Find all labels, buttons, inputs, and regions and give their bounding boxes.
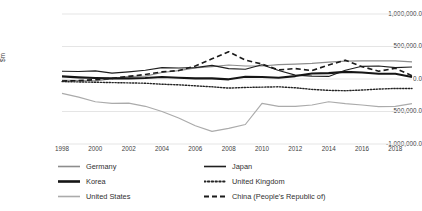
legend-label: Germany xyxy=(86,162,116,171)
x-tick-label: 2000 xyxy=(82,145,108,152)
x-tick-label: 2006 xyxy=(182,145,208,152)
series-line-united-states xyxy=(62,93,412,131)
x-tick-label: 2008 xyxy=(216,145,242,152)
legend-label: Korea xyxy=(86,177,106,186)
series-lines xyxy=(62,52,412,132)
x-tick-label: 1998 xyxy=(49,145,75,152)
legend-swatch-icon xyxy=(204,162,226,171)
legend-swatch-icon xyxy=(58,192,80,201)
x-tick-label: 2016 xyxy=(349,145,375,152)
series-line-united-kingdom xyxy=(62,82,412,91)
legend-swatch-icon xyxy=(204,192,226,201)
legend-item[interactable]: China (People's Republic of) xyxy=(204,190,325,203)
line-chart: $m 1,000,000.0500,000.00.0-500,000.0-1,0… xyxy=(0,0,422,211)
series-line-china-people-s-republic-of xyxy=(62,52,412,81)
legend-label: United States xyxy=(86,192,130,201)
legend-item[interactable]: Japan xyxy=(204,160,252,173)
legend-item[interactable]: Germany xyxy=(58,160,116,173)
x-tick-label: 2014 xyxy=(316,145,342,152)
x-tick-label: 2010 xyxy=(249,145,275,152)
legend-item[interactable]: Korea xyxy=(58,175,106,188)
chart-legend: GermanyJapanKoreaUnited KingdomUnited St… xyxy=(58,160,398,207)
legend-label: China (People's Republic of) xyxy=(232,192,325,201)
legend-swatch-icon xyxy=(204,177,226,186)
x-tick-label: 2018 xyxy=(382,145,408,152)
legend-item[interactable]: United States xyxy=(58,190,130,203)
x-tick-label: 2002 xyxy=(116,145,142,152)
plot-svg xyxy=(62,14,412,144)
x-tick-label: 2004 xyxy=(149,145,175,152)
legend-swatch-icon xyxy=(58,162,80,171)
legend-swatch-icon xyxy=(58,177,80,186)
x-axis: 1998200020022004200620082010201220142016… xyxy=(62,145,412,157)
legend-label: United Kingdom xyxy=(232,177,285,186)
y-axis-title: $m xyxy=(0,53,6,62)
x-tick-label: 2012 xyxy=(282,145,308,152)
legend-label: Japan xyxy=(232,162,252,171)
plot-area xyxy=(62,14,412,144)
legend-item[interactable]: United Kingdom xyxy=(204,175,285,188)
